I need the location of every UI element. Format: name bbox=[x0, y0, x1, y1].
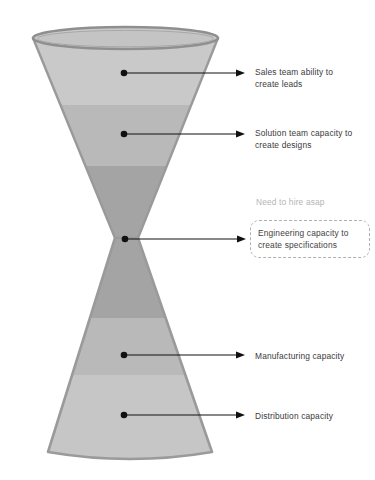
funnel-diagram: Sales team ability to create leads Solut… bbox=[0, 0, 375, 480]
callout-label-sales: Sales team ability to create leads bbox=[255, 66, 370, 91]
callout-label-engineering: Engineering capacity to create specifica… bbox=[258, 227, 366, 252]
callout-label-solution: Solution team capacity to create designs bbox=[255, 127, 373, 152]
callout-note-engineering: Need to hire asap bbox=[256, 196, 371, 208]
callout-label-manufacturing: Manufacturing capacity bbox=[255, 350, 373, 362]
callout-label-distribution: Distribution capacity bbox=[255, 410, 373, 422]
band-manufacturing-fill bbox=[0, 318, 375, 375]
funnel-top-rim-inner bbox=[38, 30, 214, 46]
